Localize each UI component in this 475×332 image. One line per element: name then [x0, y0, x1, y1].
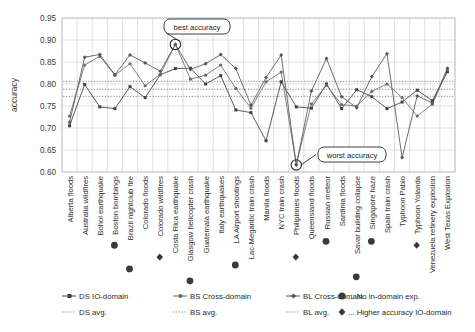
chart-root: accuracy 0.600.650.700.750.800.850.900.9… — [0, 0, 475, 332]
x-category-label-10: Italy earthquakes — [217, 176, 226, 234]
legend-higher-accuracy-diamond-icon — [339, 308, 346, 316]
legend-label: DS avg. — [79, 308, 107, 317]
annotation-callout-label-1: worst accuracy — [326, 151, 378, 160]
data-point-ds-io-domain-14 — [280, 80, 283, 83]
y-tick-label: 0.75 — [40, 102, 56, 111]
x-category-label-9: Guatemala earthquake — [202, 176, 211, 253]
x-category-label-20: Singapore haze — [368, 176, 377, 229]
legend-label: BS avg. — [190, 308, 217, 317]
x-category-label-12: Lac-Megantic train crash — [247, 176, 256, 259]
data-point-ds-io-domain-16 — [310, 107, 313, 110]
data-point-bl-cross-domain-22 — [400, 155, 404, 159]
legend-marker-circle-icon — [178, 294, 182, 298]
legend-label: DS IO-domain — [79, 292, 128, 301]
chart-legend: DS IO-domainBS Cross-domainBL Cross-doma… — [62, 292, 452, 317]
data-point-ds-io-domain-12 — [249, 111, 252, 114]
category-marker-higher-accuracy-23 — [414, 242, 420, 249]
data-point-ds-io-domain-5 — [144, 96, 147, 99]
y-tick-label: 0.85 — [40, 58, 56, 67]
legend-marker-square-icon — [68, 294, 72, 298]
data-point-bl-cross-domain-5 — [143, 61, 147, 65]
data-point-ds-io-domain-4 — [129, 85, 132, 88]
legend-label: ... No in-domain exp. — [348, 292, 420, 301]
data-point-ds-io-domain-9 — [204, 83, 207, 86]
data-point-bs-cross-domain-13 — [264, 80, 267, 83]
data-point-bs-cross-domain-10 — [219, 63, 222, 66]
data-point-ds-io-domain-10 — [219, 74, 222, 77]
data-point-bs-cross-domain-4 — [128, 62, 131, 65]
data-point-bs-cross-domain-8 — [189, 78, 192, 81]
y-axis-tick-labels: 0.600.650.700.750.800.850.900.95 — [40, 14, 56, 177]
x-category-label-3: Boston bombings — [111, 176, 120, 235]
data-point-bl-cross-domain-17 — [325, 56, 329, 60]
accuracy-line-chart: accuracy 0.600.650.700.750.800.850.900.9… — [0, 0, 475, 332]
y-tick-label: 0.60 — [40, 168, 56, 177]
y-tick-label: 0.70 — [40, 124, 56, 133]
data-point-ds-io-domain-21 — [385, 107, 388, 110]
data-point-bl-cross-domain-23 — [415, 94, 419, 98]
x-category-label-15: Philipinnes floods — [292, 176, 301, 235]
x-category-label-18: Sardinia floods — [338, 176, 347, 226]
data-point-ds-io-domain-22 — [401, 101, 404, 104]
data-point-ds-io-domain-23 — [416, 89, 419, 92]
data-point-ds-io-domain-13 — [265, 139, 268, 142]
data-point-bs-cross-domain-20 — [370, 90, 373, 93]
category-marker-no-indomain-19 — [353, 273, 360, 280]
category-marker-no-indomain-4 — [126, 266, 133, 273]
data-point-ds-io-domain-0 — [68, 124, 71, 127]
data-point-ds-io-domain-2 — [98, 105, 101, 108]
data-point-bl-cross-domain-7 — [173, 42, 177, 46]
data-point-ds-io-domain-11 — [234, 108, 237, 111]
data-point-ds-io-domain-1 — [83, 83, 86, 86]
data-point-bs-cross-domain-21 — [385, 82, 388, 85]
x-category-label-19: Savar building collapse — [353, 176, 362, 254]
legend-label: ... Higher accuracy IO-domain — [348, 308, 452, 317]
category-marker-no-indomain-11 — [232, 262, 239, 269]
x-category-label-16: Queensland floods — [307, 176, 316, 240]
data-point-bl-cross-domain-9 — [204, 62, 208, 66]
legend-marker-diamond-icon — [291, 293, 296, 298]
data-point-bl-cross-domain-15 — [294, 163, 298, 167]
category-marker-no-indomain-20 — [368, 238, 375, 245]
x-category-label-23: Typhoon Yolanda — [413, 175, 422, 234]
x-category-label-5: Colorado floods — [141, 176, 150, 229]
annotation-callout-label-0: best accuracy — [174, 23, 221, 32]
data-point-ds-io-domain-18 — [340, 107, 343, 110]
y-axis-title: accuracy — [9, 77, 19, 112]
data-point-bs-cross-domain-18 — [340, 103, 343, 106]
x-category-label-22: Typhoon Pablo — [398, 176, 407, 227]
category-marker-no-indomain-3 — [111, 242, 118, 249]
x-axis-category-labels: Alberta floodsAustralia wildfiresBohol e… — [66, 175, 453, 273]
x-category-label-2: Bohol earthquake — [96, 176, 105, 236]
legend-no-indomain-circle-icon — [338, 292, 345, 299]
x-category-label-24: Venezuela refinery explosion — [428, 176, 437, 273]
legend-label: BS Cross-domain — [190, 292, 251, 301]
data-point-ds-io-domain-19 — [355, 88, 358, 91]
data-point-bs-cross-domain-22 — [400, 96, 403, 99]
data-point-bl-cross-domain-6 — [158, 69, 162, 73]
x-category-label-1: Australia wildfires — [81, 176, 90, 235]
x-category-label-6: Colorado wildfires — [156, 176, 165, 237]
data-point-bs-cross-domain-23 — [416, 115, 419, 118]
data-point-bs-cross-domain-17 — [325, 84, 328, 87]
legend-label: BL avg. — [303, 308, 329, 317]
data-point-bs-cross-domain-14 — [280, 71, 283, 74]
x-category-label-17: Russian meteor — [323, 176, 332, 230]
y-tick-label: 0.90 — [40, 36, 56, 45]
x-axis-category-markers — [111, 238, 420, 284]
x-category-label-0: Alberta floods — [66, 176, 75, 223]
y-tick-label: 0.65 — [40, 146, 56, 155]
x-category-label-11: LA Airport shootings — [232, 176, 241, 244]
x-category-label-14: NYC train crash — [277, 176, 286, 230]
x-category-label-13: Manila floods — [262, 176, 271, 221]
x-category-label-4: Brazil nightclub fire — [126, 176, 135, 240]
x-category-label-25: West Texas Explosion — [443, 176, 452, 250]
data-point-bs-cross-domain-0 — [68, 115, 71, 118]
x-category-label-7: Costa Rica earthquake — [171, 176, 180, 253]
x-category-label-21: Spain train crash — [383, 176, 392, 233]
y-tick-label: 0.95 — [40, 14, 56, 23]
category-marker-no-indomain-17 — [323, 238, 330, 245]
category-marker-higher-accuracy-6 — [157, 254, 163, 261]
data-point-ds-io-domain-20 — [370, 95, 373, 98]
data-point-bs-cross-domain-5 — [144, 84, 147, 87]
